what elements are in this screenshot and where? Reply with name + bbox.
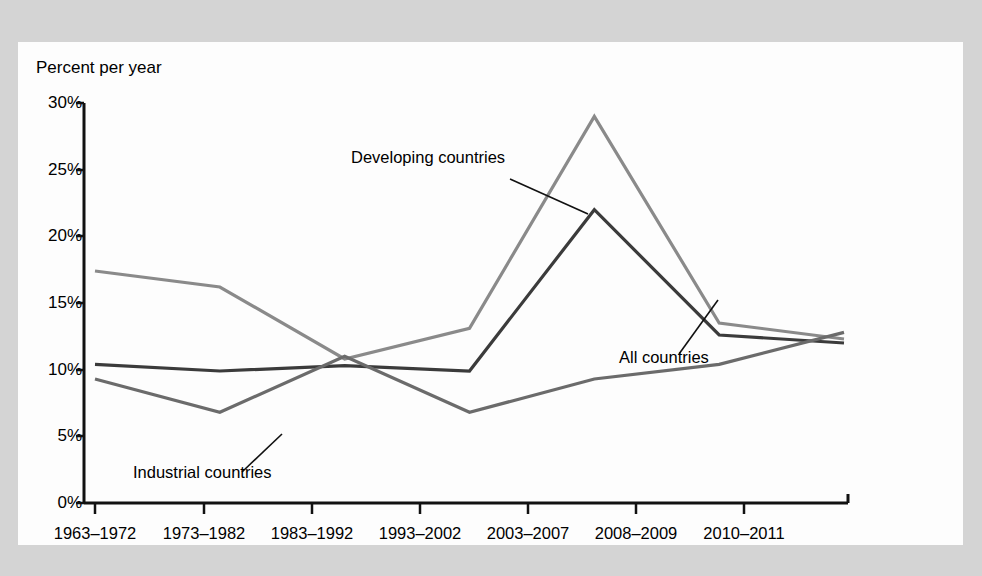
annotation-label-all-countries: All countries: [619, 348, 709, 367]
x-tick-label: 2008–2009: [595, 524, 678, 543]
x-tick-label: 1973–1982: [163, 524, 246, 543]
leader-line-developing-countries: [510, 179, 588, 214]
series-line-all-countries: [95, 210, 844, 371]
chart-panel: Percent per year 30% 25% 20% 15% 10% 5% …: [18, 42, 963, 545]
x-tick-label: 1963–1972: [54, 524, 137, 543]
chart-plot-area: Percent per year 30% 25% 20% 15% 10% 5% …: [18, 42, 963, 545]
x-tick-label: 1983–1992: [271, 524, 354, 543]
x-tick-label: 2003–2007: [487, 524, 570, 543]
x-axis-tick-labels: 1963–1972 1973–1982 1983–1992 1993–2002 …: [18, 503, 963, 545]
annotation-label-developing-countries: Developing countries: [351, 148, 505, 167]
x-tick-label: 1993–2002: [379, 524, 462, 543]
annotation-label-industrial-countries: Industrial countries: [133, 463, 272, 482]
x-tick-label: 2010–2011: [703, 524, 784, 543]
